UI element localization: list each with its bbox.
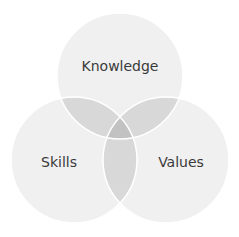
venn-diagram <box>0 0 239 237</box>
label-knowledge: Knowledge <box>82 58 159 74</box>
label-values: Values <box>158 154 204 170</box>
label-skills: Skills <box>41 154 77 170</box>
